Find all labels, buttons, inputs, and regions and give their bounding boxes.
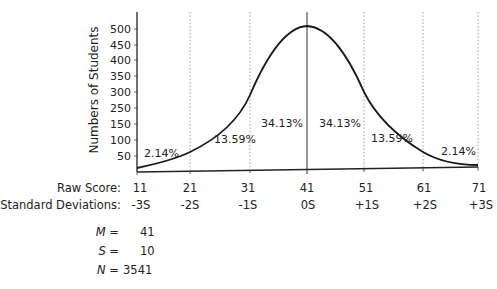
stat-mean: M = 41 (83, 223, 203, 242)
raw-score-value: 21 (183, 181, 198, 195)
standard-deviations-row: Standard Deviations: -3S -2S -1S 0S +1S … (0, 198, 497, 214)
stat-sd-key: S (98, 244, 105, 258)
stat-mean-key: M (96, 225, 106, 239)
y-tick-label: 250 (110, 102, 131, 115)
sd-value: +2S (413, 198, 437, 212)
equals-sign: = (109, 244, 119, 258)
sd-value: +3S (469, 198, 493, 212)
sd-value: -3S (132, 198, 151, 212)
raw-score-value: 41 (300, 181, 315, 195)
stat-sd: S = 10 (83, 242, 203, 261)
equals-sign: = (109, 225, 119, 239)
y-tick-label: 400 (110, 54, 131, 67)
sd-value: -1S (239, 198, 258, 212)
sd-value: +1S (355, 198, 379, 212)
y-axis-ticks: 500 450 400 350 300 250 150 100 50 (110, 23, 137, 163)
raw-score-value: 51 (359, 181, 374, 195)
raw-score-value: 31 (241, 181, 256, 195)
y-tick-label: 500 (110, 23, 131, 36)
sd-gridlines (190, 12, 478, 172)
stat-n-value: 3541 (123, 261, 152, 280)
y-tick-label: 100 (110, 134, 131, 147)
raw-score-label: Raw Score: (57, 181, 121, 195)
pct-label: 13.59% (214, 133, 256, 146)
pct-label: 34.13% (319, 117, 361, 130)
raw-score-value: 61 (417, 181, 432, 195)
y-tick-label: 50 (117, 150, 131, 163)
pct-label: 2.14% (441, 145, 476, 158)
standard-deviations-label: Standard Deviations: (0, 198, 121, 212)
normal-distribution-chart: Numbers of Students 500 450 400 350 300 … (0, 0, 497, 210)
equals-sign: = (109, 263, 119, 277)
stat-n-key: N (97, 263, 106, 277)
pct-label: 2.14% (144, 147, 179, 160)
stat-n: N = 3541 (83, 261, 203, 280)
raw-score-row: Raw Score: 11 21 31 41 51 61 71 (0, 181, 497, 197)
stat-sd-value: 10 (140, 242, 155, 261)
y-tick-label: 350 (110, 70, 131, 83)
sd-value: 0S (301, 198, 316, 212)
summary-stats: M = 41 S = 10 N = 3541 (83, 223, 203, 280)
pct-label: 34.13% (261, 117, 303, 130)
y-tick-label: 300 (110, 86, 131, 99)
raw-score-value: 11 (133, 181, 148, 195)
pct-label: 13.59% (371, 132, 413, 145)
y-axis-label: Numbers of Students (87, 26, 101, 153)
y-tick-label: 150 (110, 118, 131, 131)
sd-value: -2S (181, 198, 200, 212)
stat-mean-value: 41 (140, 223, 155, 242)
raw-score-value: 71 (472, 181, 487, 195)
y-tick-label: 450 (110, 39, 131, 52)
